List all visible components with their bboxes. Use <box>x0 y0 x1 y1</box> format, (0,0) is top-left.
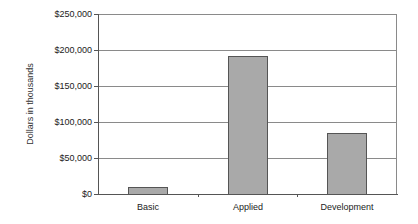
y-axis-line <box>98 14 99 195</box>
bar-basic <box>128 187 168 195</box>
bar-development <box>327 133 367 195</box>
y-tick-label: $0 <box>82 189 92 199</box>
x-tick-mark <box>297 194 298 197</box>
bar-chart: $0$50,000$100,000$150,000$200,000$250,00… <box>0 0 418 224</box>
y-tick-label: $50,000 <box>59 153 92 163</box>
y-tick-label: $200,000 <box>54 45 92 55</box>
y-tick-label: $250,000 <box>54 9 92 19</box>
y-tick-label: $150,000 <box>54 81 92 91</box>
x-tick-mark <box>198 194 199 197</box>
y-tick-label: $100,000 <box>54 117 92 127</box>
x-tick-label: Basic <box>108 202 188 212</box>
bar-applied <box>228 56 268 195</box>
x-tick-label: Development <box>307 202 387 212</box>
gridline <box>98 50 397 51</box>
x-tick-label: Applied <box>208 202 288 212</box>
y-axis-title: Dollars in thousands <box>25 63 35 145</box>
